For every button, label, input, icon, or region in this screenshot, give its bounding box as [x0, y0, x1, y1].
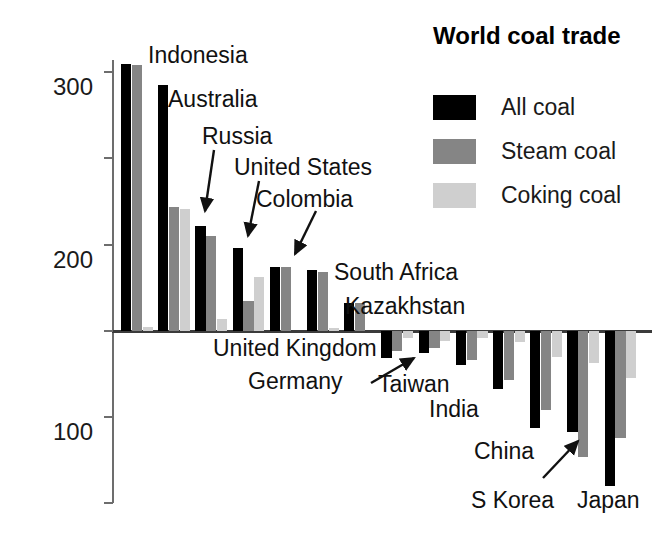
bar-group-indonesia — [121, 55, 158, 503]
annotation-russia: Russia — [202, 123, 272, 150]
bar-india-steam-coal — [504, 331, 514, 380]
annotation-s-korea: S Korea — [471, 487, 554, 514]
bar-south-africa-all-coal — [307, 270, 317, 331]
bar-taiwan-all-coal — [456, 331, 466, 365]
y-tick-200: 200 — [104, 157, 113, 159]
bar-group-taiwan — [456, 55, 493, 503]
bar-united-kingdom-steam-coal — [392, 331, 402, 352]
annotation-japan: Japan — [577, 487, 640, 514]
y-tick-neg100: –100 — [104, 416, 113, 418]
y-tick-100: 100 — [104, 244, 113, 246]
bar-japan-all-coal — [605, 331, 615, 486]
bar-india-all-coal — [493, 331, 503, 390]
annotation-india: India — [429, 396, 479, 423]
bar-indonesia-all-coal — [121, 64, 131, 331]
bar-group-india — [493, 55, 530, 503]
bar-germany-steam-coal — [429, 331, 439, 348]
bar-china-steam-coal — [541, 331, 551, 410]
bar-india-coking-coal — [515, 331, 525, 342]
annotation-united-states: United States — [234, 154, 372, 181]
bar-united-kingdom-coking-coal — [403, 331, 413, 338]
bar-germany-all-coal — [419, 331, 429, 353]
bar-south-africa-steam-coal — [318, 272, 328, 331]
y-axis-spine — [112, 60, 114, 503]
bar-united-kingdom-all-coal — [381, 331, 391, 359]
bar-group-china — [530, 55, 567, 503]
bar-united-states-steam-coal — [243, 301, 253, 330]
y-tick-label-300: 300 — [53, 74, 93, 102]
bar-indonesia-coking-coal — [143, 327, 153, 330]
annotation-china: China — [474, 438, 534, 465]
y-tick-neg200: –200 — [104, 502, 113, 504]
bar-russia-steam-coal — [206, 236, 216, 331]
bar-japan-coking-coal — [626, 331, 636, 378]
bar-s-korea-steam-coal — [578, 331, 588, 458]
bar-japan-steam-coal — [615, 331, 625, 439]
bar-s-korea-all-coal — [567, 331, 577, 433]
annotation-kazakhstan: Kazakhstan — [345, 293, 465, 320]
coal-trade-chart: World coal trade All coal Steam coal Cok… — [0, 0, 664, 534]
y-tick-label-100: 100 — [53, 419, 93, 447]
bar-group-s-korea — [567, 55, 604, 503]
bar-group-colombia — [270, 55, 307, 503]
annotation-south-africa: South Africa — [334, 259, 458, 286]
bar-australia-all-coal — [158, 85, 168, 331]
bar-s-korea-coking-coal — [589, 331, 599, 364]
y-tick-label-200: 200 — [53, 246, 93, 274]
annotation-indonesia: Indonesia — [148, 42, 248, 69]
chart-title: World coal trade — [433, 22, 621, 50]
annotation-united-kingdom: United Kingdom — [213, 335, 377, 362]
bar-china-coking-coal — [552, 331, 562, 357]
bar-colombia-steam-coal — [281, 267, 291, 331]
annotation-colombia: Colombia — [256, 186, 353, 213]
bar-colombia-all-coal — [270, 267, 280, 331]
y-tick-0: 0 — [104, 330, 113, 332]
bar-group-japan — [605, 55, 642, 503]
bar-russia-coking-coal — [217, 319, 227, 330]
bar-group-australia — [158, 55, 195, 503]
bar-australia-coking-coal — [180, 209, 190, 330]
annotation-germany: Germany — [248, 368, 343, 395]
bar-russia-all-coal — [195, 226, 205, 331]
bar-south-africa-coking-coal — [329, 328, 339, 331]
annotation-australia: Australia — [168, 86, 257, 113]
bar-germany-coking-coal — [440, 331, 450, 341]
bar-australia-steam-coal — [169, 207, 179, 330]
bar-united-states-all-coal — [233, 248, 243, 331]
bar-united-states-coking-coal — [254, 277, 264, 330]
annotation-taiwan: Taiwan — [378, 371, 450, 398]
y-tick-300: 300 — [104, 71, 113, 73]
bar-taiwan-coking-coal — [477, 331, 487, 339]
bar-taiwan-steam-coal — [467, 331, 477, 360]
bar-china-all-coal — [530, 331, 540, 428]
bar-indonesia-steam-coal — [132, 65, 142, 330]
